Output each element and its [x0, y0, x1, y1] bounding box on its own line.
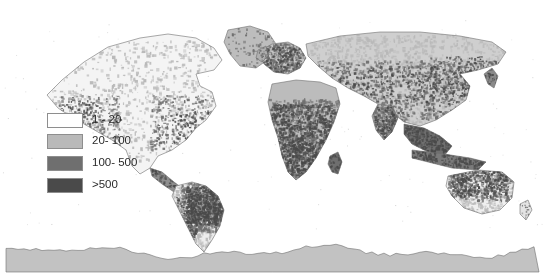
- world-density-map-figure: 1 - 20 20- 100 100- 500 >500: [0, 0, 545, 279]
- legend-swatch-20-100: [47, 134, 83, 149]
- density-class-legend: 1 - 20 20- 100 100- 500 >500: [47, 110, 157, 198]
- legend-label-1-20: 1 - 20: [92, 114, 121, 126]
- legend-item-100-500: 100- 500: [47, 153, 137, 173]
- legend-label-100-500: 100- 500: [92, 157, 137, 169]
- legend-label-over-500: >500: [92, 179, 118, 191]
- legend-label-20-100: 20- 100: [92, 135, 131, 147]
- legend-swatch-1-20: [47, 113, 83, 128]
- legend-item-20-100: 20- 100: [47, 131, 131, 151]
- legend-swatch-over-500: [47, 178, 83, 193]
- legend-swatch-100-500: [47, 156, 83, 171]
- legend-item-1-20: 1 - 20: [47, 110, 121, 130]
- legend-item-over-500: >500: [47, 175, 118, 195]
